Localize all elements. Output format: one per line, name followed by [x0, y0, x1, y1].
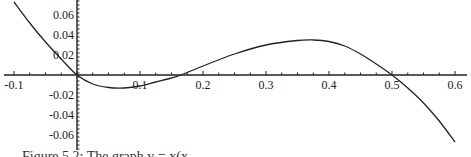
x-tick-label: 0.5	[385, 78, 400, 92]
y-tick-label: 0.06	[53, 8, 74, 22]
x-tick-label: -0.1	[5, 78, 24, 92]
y-tick-label: -0.02	[49, 88, 74, 102]
y-tick-label: 0.02	[53, 48, 74, 62]
y-tick-label: -0.04	[49, 108, 74, 122]
y-tick-label: 0.04	[53, 28, 74, 42]
x-tick-label: 0.4	[322, 78, 337, 92]
chart-plot: -0.10.10.20.30.40.50.6 0.060.040.02-0.02…	[0, 0, 471, 157]
x-tick-label: 0.6	[448, 78, 463, 92]
y-tick-label: -0.06	[49, 128, 74, 142]
x-tick-label: 0.2	[196, 78, 211, 92]
figure-caption: Figure 5.2: The graph y = x(x...	[22, 149, 198, 157]
x-tick-label: 0.3	[259, 78, 274, 92]
data-curve	[14, 2, 455, 142]
